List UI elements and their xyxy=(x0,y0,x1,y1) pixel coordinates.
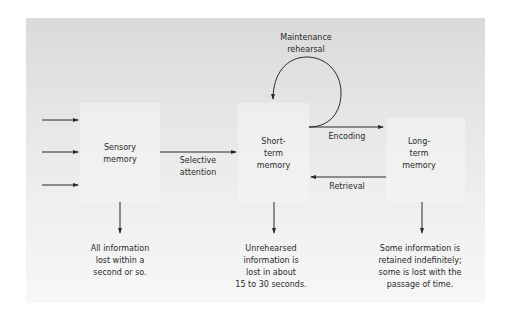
label-line: Some information is xyxy=(362,243,478,255)
label-line: All information xyxy=(70,243,170,255)
label-line: Long- xyxy=(386,136,452,148)
label-line: term xyxy=(386,148,452,160)
selective-attention-label: Selective attention xyxy=(163,155,233,179)
label-line: passage of time. xyxy=(362,279,478,291)
retrieval-label: Retrieval xyxy=(315,181,379,193)
label-line: memory xyxy=(238,160,309,172)
label-line: second or so. xyxy=(70,267,170,279)
encoding-label: Encoding xyxy=(315,131,379,143)
label-line: Selective xyxy=(163,155,233,167)
label-line: some is lost with the xyxy=(362,267,478,279)
short-term-memory-label: Short- term memory xyxy=(238,136,309,172)
label-line: rehearsal xyxy=(266,44,346,56)
label-line: lost in about xyxy=(221,267,321,279)
label-line: Sensory xyxy=(80,142,160,154)
sensory-memory-label: Sensory memory xyxy=(80,142,160,166)
long-term-outcome-text: Some information is retained indefinitel… xyxy=(362,243,478,291)
label-line: Unrehearsed xyxy=(221,243,321,255)
label-line: attention xyxy=(163,167,233,179)
label-line: lost within a xyxy=(70,255,170,267)
short-term-outcome-text: Unrehearsed information is lost in about… xyxy=(221,243,321,291)
label-line: Short- xyxy=(238,136,309,148)
sensory-outcome-text: All information lost within a second or … xyxy=(70,243,170,279)
label-line: information is xyxy=(221,255,321,267)
label-line: 15 to 30 seconds. xyxy=(221,279,321,291)
label-line: memory xyxy=(386,160,452,172)
maintenance-rehearsal-label: Maintenance rehearsal xyxy=(266,32,346,56)
label-line: Maintenance xyxy=(266,32,346,44)
label-line: memory xyxy=(80,154,160,166)
label-line: retained indefinitely; xyxy=(362,255,478,267)
label-line: term xyxy=(238,148,309,160)
long-term-memory-label: Long- term memory xyxy=(386,136,452,172)
maintenance-rehearsal-loop xyxy=(273,57,341,127)
